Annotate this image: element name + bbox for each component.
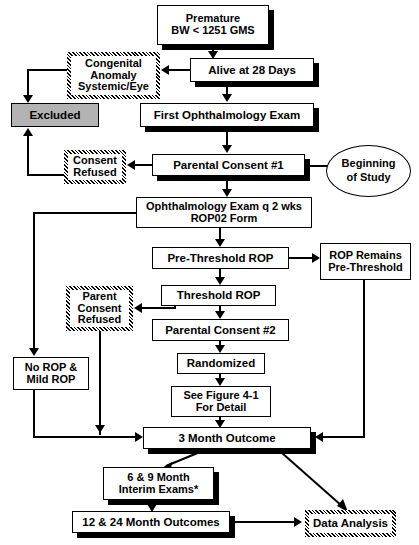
arrowhead-ropremains-threemonth: [315, 432, 323, 442]
node-parent-consent-refused[interactable]: Parent Consent Refused: [66, 286, 133, 331]
arrowhead-consentrefused-excluded: [23, 128, 33, 136]
node-no-rop-mild-rop[interactable]: No ROP & Mild ROP: [13, 357, 89, 390]
arrowhead-parentrefused-down: [95, 425, 105, 433]
arrowhead-congenital-excluded: [23, 95, 33, 103]
edge-outcomes-dataanalysis: [230, 521, 295, 523]
arrowhead-ophthq2-prethreshold: [215, 239, 225, 247]
flowchart-canvas: Premature BW < 1251 GMS Congenital Anoma…: [0, 0, 419, 545]
arrowhead-threshold-parental2: [215, 311, 225, 319]
arrowhead-prethreshold-threshold: [215, 277, 225, 285]
node-data-analysis[interactable]: Data Analysis: [305, 510, 396, 537]
node-parental-consent-2[interactable]: Parental Consent #2: [152, 319, 289, 341]
node-pre-threshold-rop[interactable]: Pre-Threshold ROP: [152, 247, 289, 269]
arrowhead-outcomes-dataanalysis: [294, 517, 302, 527]
node-consent-refused[interactable]: Consent Refused: [64, 150, 126, 184]
node-rop-remains-pre-threshold[interactable]: ROP Remains Pre-Threshold: [320, 243, 411, 280]
arrowhead-parental2-randomized: [215, 345, 225, 353]
node-beginning-of-study[interactable]: Beginning of Study: [326, 145, 411, 197]
arrowhead-alive28-firstexam: [222, 94, 232, 102]
arrowhead-randomized-seefigure: [215, 378, 225, 386]
node-12-24-month-outcomes[interactable]: 12 & 24 Month Outcomes: [72, 511, 230, 533]
node-threshold-rop[interactable]: Threshold ROP: [161, 285, 276, 306]
node-ophthalmology-exam-q2wks[interactable]: Ophthalmology Exam q 2 wks ROP02 Form: [136, 197, 312, 228]
node-parental-consent-1[interactable]: Parental Consent #1: [152, 154, 305, 176]
node-alive-at-28-days[interactable]: Alive at 28 Days: [190, 58, 314, 82]
arrowhead-ophthq2-norop: [29, 348, 39, 356]
arrowhead-parental1-ophthq2: [222, 189, 232, 197]
node-3-month-outcome[interactable]: 3 Month Outcome: [143, 427, 311, 449]
node-randomized[interactable]: Randomized: [177, 353, 265, 374]
arrowhead-threshold-parentrefused: [134, 303, 142, 313]
node-excluded[interactable]: Excluded: [11, 103, 99, 127]
node-first-ophthalmology-exam[interactable]: First Ophthalmology Exam: [140, 103, 314, 127]
node-6-9-month-interim-exams[interactable]: 6 & 9 Month Interim Exams*: [103, 467, 214, 500]
arrowhead-alive28-congenital: [161, 65, 169, 75]
node-premature[interactable]: Premature BW < 1251 GMS: [157, 5, 269, 45]
node-congenital-anomaly[interactable]: Congenital Anomaly Systemic/Eye: [67, 52, 160, 99]
arrowhead-prethreshold-ropremains: [312, 253, 320, 263]
arrowhead-parental1-consentrefused: [127, 160, 135, 170]
arrowhead-firstexam-parental1: [222, 145, 232, 153]
node-see-figure-4-1[interactable]: See Figure 4-1 For Detail: [171, 386, 271, 417]
arrowhead-norop-threemonth: [135, 432, 143, 442]
